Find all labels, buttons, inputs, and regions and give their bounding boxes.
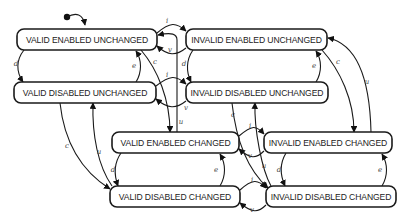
transition-arrow xyxy=(93,103,112,186)
transition-iec-to-ieu: u xyxy=(328,38,371,132)
transition-arrow xyxy=(115,153,121,186)
state-vec: VALID ENABLED CHANGED xyxy=(112,132,239,153)
state-label: VALID ENABLED UNCHANGED xyxy=(26,35,148,45)
transition-label: u xyxy=(97,148,102,156)
state-label: INVALID ENABLED CHANGED xyxy=(269,138,387,148)
transition-vdu-to-vdc: c xyxy=(60,103,110,189)
transition-idc-to-iec: e xyxy=(378,154,387,186)
transition-label: i xyxy=(166,17,168,25)
transition-iec-to-idc: d xyxy=(277,153,286,186)
transition-label: v xyxy=(250,206,254,214)
state-idu: INVALID DISABLED UNCHANGED xyxy=(186,82,328,103)
transition-label: u xyxy=(262,162,267,170)
transition-label: v xyxy=(248,152,252,160)
transition-label: u xyxy=(179,118,184,126)
transition-ieu-to-idu: d xyxy=(182,50,193,82)
transition-label: i xyxy=(249,122,251,130)
transition-arrow xyxy=(220,154,225,186)
transition-label: d xyxy=(111,166,116,174)
transition-vdc-to-vec: e xyxy=(214,154,225,186)
state-label: INVALID DISABLED CHANGED xyxy=(271,192,392,202)
transition-arrow xyxy=(316,51,321,82)
transition-label: c xyxy=(336,58,340,66)
transition-arrow xyxy=(281,153,286,186)
transition-label: c xyxy=(231,111,235,119)
transition-idc-to-vdc: v xyxy=(240,203,266,214)
transition-veu-to-vdu: d xyxy=(14,50,24,82)
transition-label: d xyxy=(14,60,19,68)
transition-label: e xyxy=(378,166,382,174)
initial-state-marker xyxy=(64,14,85,25)
state-iec: INVALID ENABLED CHANGED xyxy=(264,132,392,153)
transition-arrow xyxy=(18,50,24,82)
state-diagram: ivivivivdedededecucucucu VALID ENABLED U… xyxy=(0,0,413,223)
state-idc: INVALID DISABLED CHANGED xyxy=(266,186,396,207)
state-label: VALID DISABLED UNCHANGED xyxy=(23,88,147,98)
state-label: VALID DISABLED CHANGED xyxy=(119,192,231,202)
transition-arrow xyxy=(136,51,141,82)
transition-arrow xyxy=(187,50,193,82)
transition-vec-to-vdc: d xyxy=(111,153,121,186)
transition-vdc-to-vdu: u xyxy=(93,103,112,186)
transition-vdc-to-idc: i xyxy=(240,176,266,190)
transition-label: i xyxy=(166,71,168,79)
transition-label: u xyxy=(365,78,370,86)
state-label: VALID ENABLED CHANGED xyxy=(121,138,231,148)
transition-veu-to-ieu: i xyxy=(157,17,186,33)
transition-label: c xyxy=(65,142,69,150)
transition-label: d xyxy=(277,166,282,174)
transition-arrow xyxy=(156,99,186,107)
transition-label: e xyxy=(132,62,136,70)
transition-idu-to-ieu: e xyxy=(312,51,321,82)
state-veu: VALID ENABLED UNCHANGED xyxy=(17,29,157,50)
state-vdc: VALID DISABLED CHANGED xyxy=(110,186,240,207)
transition-label: v xyxy=(184,104,188,112)
transition-arrow xyxy=(157,24,186,33)
transition-vdu-to-veu: e xyxy=(132,51,141,82)
state-vdu: VALID DISABLED UNCHANGED xyxy=(14,82,156,103)
transition-label: e xyxy=(214,166,218,174)
state-label: INVALID ENABLED UNCHANGED xyxy=(191,35,322,45)
transition-ieu-to-veu: v xyxy=(157,46,186,54)
transition-idu-to-vdu: v xyxy=(156,99,188,112)
transition-arrow xyxy=(382,154,387,186)
transition-label: d xyxy=(182,60,187,68)
transition-label: v xyxy=(168,46,172,54)
transition-vec-to-iec: i xyxy=(239,122,264,136)
initial-arrow xyxy=(67,14,85,25)
transition-label: c xyxy=(153,58,157,66)
states: VALID ENABLED UNCHANGEDINVALID ENABLED U… xyxy=(14,29,396,207)
state-label: INVALID DISABLED UNCHANGED xyxy=(191,88,324,98)
state-ieu: INVALID ENABLED UNCHANGED xyxy=(186,29,327,50)
transition-arrow xyxy=(239,127,264,136)
transition-label: i xyxy=(251,176,253,184)
transition-label: e xyxy=(312,62,316,70)
